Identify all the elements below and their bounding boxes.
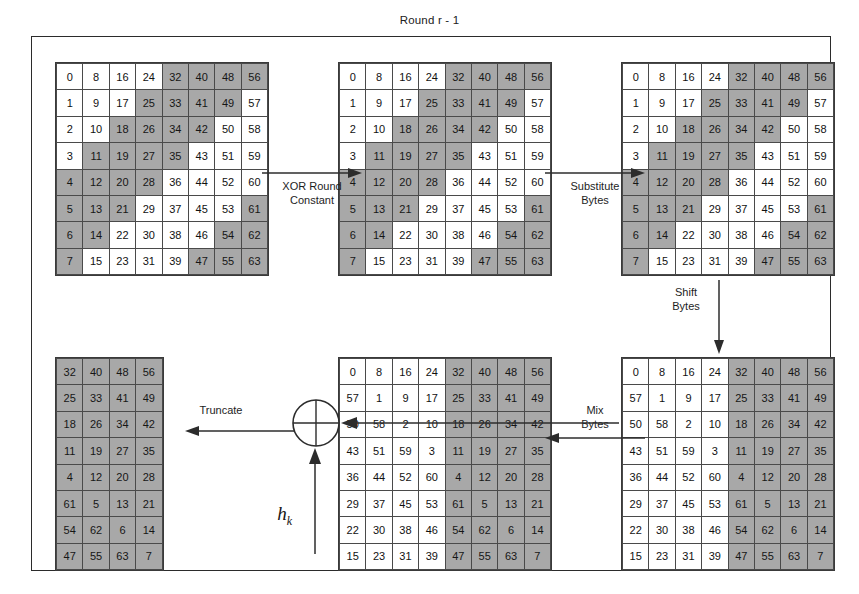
matrix-row: 614223038465462 <box>623 222 834 248</box>
arrow-substitute-bytes: Substitute Bytes <box>545 166 645 207</box>
matrix-cell: 25 <box>445 385 471 411</box>
matrix-cell: 20 <box>498 464 524 490</box>
arrow-mixed-to-xor <box>341 416 619 430</box>
arrow-label-xor-round-constant: XOR Round Constant <box>262 180 362 207</box>
matrix-cell: 55 <box>83 543 109 569</box>
matrix-cell: 18 <box>109 116 135 142</box>
matrix-cell: 33 <box>162 90 188 116</box>
matrix-cell: 24 <box>702 359 728 385</box>
matrix-row: 311192735435159 <box>340 143 551 169</box>
matrix-cell: 27 <box>498 438 524 464</box>
matrix-row: 19172533414957 <box>57 90 268 116</box>
matrix-cell: 28 <box>524 464 550 490</box>
matrix-cell: 3 <box>57 143 83 169</box>
matrix-cell: 32 <box>728 359 754 385</box>
matrix-cell: 23 <box>366 543 392 569</box>
matrix-cell: 0 <box>340 64 366 90</box>
matrix-cell: 55 <box>498 248 524 274</box>
matrix-row: 293745536151321 <box>340 490 551 516</box>
page-title: Round r - 1 <box>0 14 859 26</box>
matrix-cell: 8 <box>366 359 392 385</box>
matrix-cell: 23 <box>649 543 675 569</box>
matrix-cell: 15 <box>366 248 392 274</box>
matrix-cell: 44 <box>754 169 780 195</box>
matrix-cell: 7 <box>136 543 162 569</box>
matrix-cell: 19 <box>392 143 418 169</box>
matrix-cell: 6 <box>109 517 135 543</box>
matrix-grid: 0816243240485619172533414957210182634425… <box>56 63 268 275</box>
matrix-cell: 33 <box>445 90 471 116</box>
matrix-cell: 16 <box>675 359 701 385</box>
matrix-cell: 29 <box>419 195 445 221</box>
matrix-cell: 22 <box>675 222 701 248</box>
matrix-cell: 60 <box>807 169 833 195</box>
matrix-cell: 51 <box>215 143 241 169</box>
matrix-cell: 47 <box>445 543 471 569</box>
arrow-hk-input <box>290 448 344 554</box>
matrix-cell: 37 <box>366 490 392 516</box>
matrix-cell: 21 <box>807 490 833 516</box>
matrix-cell: 21 <box>675 195 701 221</box>
matrix-cell: 53 <box>498 195 524 221</box>
matrix-cell: 37 <box>649 490 675 516</box>
matrix-row: 435159311192735 <box>340 438 551 464</box>
matrix-cell: 43 <box>188 143 214 169</box>
matrix-cell: 52 <box>781 169 807 195</box>
matrix-row: 715233139475563 <box>623 248 834 274</box>
matrix-row: 311192735435159 <box>57 143 268 169</box>
matrix-mixed: 0816243240485657191725334149505821018263… <box>338 357 552 571</box>
matrix-cell: 30 <box>702 222 728 248</box>
matrix-cell: 12 <box>366 169 392 195</box>
matrix-cell: 57 <box>340 385 366 411</box>
matrix-cell: 34 <box>109 411 135 437</box>
matrix-grid: 0816243240485619172533414957210182634425… <box>339 63 551 275</box>
matrix-cell: 24 <box>419 64 445 90</box>
matrix-cell: 10 <box>702 411 728 437</box>
matrix-cell: 18 <box>728 411 754 437</box>
matrix-cell: 9 <box>392 385 418 411</box>
matrix-cell: 1 <box>340 90 366 116</box>
matrix-cell: 44 <box>188 169 214 195</box>
matrix-cell: 15 <box>623 543 649 569</box>
matrix-cell: 7 <box>340 248 366 274</box>
matrix-row: 311192735435159 <box>623 143 834 169</box>
matrix-cell: 6 <box>498 517 524 543</box>
arrow-label-shift-bytes: Shift Bytes <box>660 286 712 313</box>
matrix-cell: 40 <box>471 64 497 90</box>
matrix-cell: 27 <box>781 438 807 464</box>
matrix-cell: 47 <box>471 248 497 274</box>
matrix-row: 08162432404856 <box>623 359 834 385</box>
matrix-row: 19172533414957 <box>340 90 551 116</box>
matrix-cell: 53 <box>781 195 807 221</box>
matrix-cell: 33 <box>471 385 497 411</box>
matrix-cell: 49 <box>807 385 833 411</box>
matrix-cell: 14 <box>136 517 162 543</box>
matrix-cell: 32 <box>162 64 188 90</box>
matrix-cell: 8 <box>649 64 675 90</box>
matrix-row: 25334149 <box>57 385 163 411</box>
matrix-cell: 59 <box>675 438 701 464</box>
matrix-cell: 63 <box>524 248 550 274</box>
arrow-right-icon <box>545 166 645 180</box>
matrix-cell: 50 <box>781 116 807 142</box>
matrix-cell: 19 <box>754 438 780 464</box>
arrow-label-truncate: Truncate <box>185 404 257 418</box>
hk-base: h <box>277 503 287 524</box>
matrix-row: 513212937455361 <box>340 195 551 221</box>
matrix-cell: 16 <box>392 359 418 385</box>
matrix-cell: 7 <box>524 543 550 569</box>
matrix-cell: 28 <box>419 169 445 195</box>
matrix-truncated: 3240485625334149182634421119273541220286… <box>55 357 164 571</box>
matrix-cell: 57 <box>524 90 550 116</box>
matrix-cell: 20 <box>109 464 135 490</box>
matrix-cell: 55 <box>471 543 497 569</box>
matrix-cell: 51 <box>366 438 392 464</box>
matrix-cell: 17 <box>675 90 701 116</box>
matrix-shifted: 0816243240485657191725334149505821018263… <box>621 357 835 571</box>
matrix-row: 5462614 <box>57 517 163 543</box>
matrix-cell: 26 <box>83 411 109 437</box>
matrix-row: 57191725334149 <box>623 385 834 411</box>
matrix-cell: 47 <box>754 248 780 274</box>
matrix-cell: 33 <box>83 385 109 411</box>
matrix-cell: 63 <box>241 248 267 274</box>
